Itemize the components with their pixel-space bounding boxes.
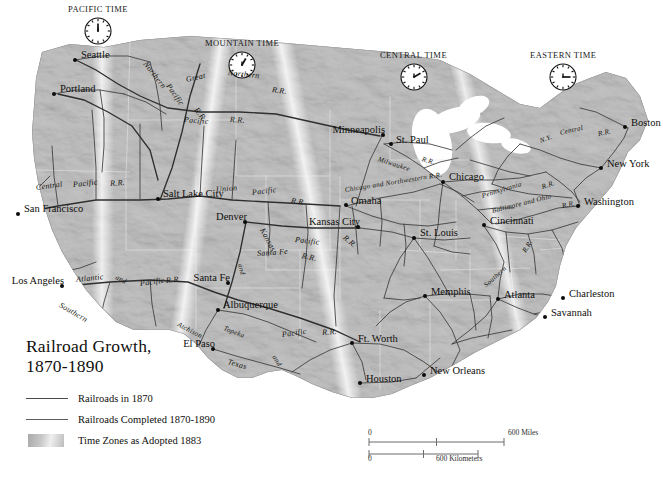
city-marker-dot	[389, 142, 393, 146]
city-label: Santa Fe	[194, 272, 230, 283]
city-marker-dot	[482, 223, 486, 227]
tz-eastern-clock-icon	[530, 60, 596, 92]
city-marker-dot	[623, 125, 627, 129]
scale-miles-start: 0	[368, 428, 372, 437]
city-label: San Francisco	[24, 203, 83, 214]
city-marker-dot	[543, 315, 547, 319]
line-1870-glyph	[26, 398, 68, 399]
city-label: Seattle	[81, 49, 110, 60]
legend-title-line1: Railroad Growth,	[26, 336, 215, 356]
city-marker-dot	[16, 212, 20, 216]
city-label: Charleston	[569, 288, 615, 299]
legend-railroads-1870-text: Railroads in 1870	[78, 393, 153, 404]
city-label: Boston	[631, 117, 661, 128]
swatch-tz-glyph	[28, 434, 64, 447]
city-label: Houston	[366, 373, 402, 384]
legend-time-zones: Time Zones as Adopted 1883	[26, 430, 215, 451]
railroad-name-label: R.R.	[166, 274, 182, 285]
legend-time-zones-text: Time Zones as Adopted 1883	[78, 435, 201, 446]
city-label: Cincinnati	[490, 215, 534, 226]
city-label: Savannah	[551, 307, 592, 318]
city-marker-dot	[358, 381, 362, 385]
tz-central: CENTRAL TIME	[380, 50, 447, 92]
city-marker-dot	[73, 58, 77, 62]
city-label: St. Paul	[396, 134, 429, 145]
city-label: Los Angeles	[12, 275, 64, 286]
city-marker-dot	[216, 308, 220, 312]
railroad-name-label: R.R.	[322, 327, 338, 337]
city-label: Salt Lake City	[163, 188, 224, 199]
city-label: Kansas City	[309, 216, 360, 227]
legend-railroads-completed: Railroads Completed 1870-1890	[26, 409, 215, 430]
city-label: St. Louis	[420, 227, 458, 238]
city-label: Albuquerque	[223, 299, 278, 310]
city-label: Minneapolis	[333, 124, 386, 135]
city-marker-dot	[561, 296, 565, 300]
city-marker-dot	[496, 297, 500, 301]
tz-central-label: CENTRAL TIME	[380, 50, 447, 60]
line-1890-glyph	[26, 419, 68, 420]
city-marker-dot	[422, 373, 426, 377]
tz-central-clock-icon	[380, 60, 447, 92]
map-legend: Railroad Growth, 1870-1890 Railroads in …	[26, 336, 215, 451]
city-label: Denver	[216, 211, 247, 222]
tz-pacific: PACIFIC TIME	[68, 4, 128, 46]
city-label: New Orleans	[430, 365, 485, 376]
tz-pacific-label: PACIFIC TIME	[68, 4, 128, 14]
city-marker-dot	[423, 294, 427, 298]
legend-railroads-completed-text: Railroads Completed 1870-1890	[78, 414, 215, 425]
city-label: Ft. Worth	[358, 333, 398, 344]
city-marker-dot	[156, 197, 160, 201]
legend-railroads-completed-swatch	[26, 419, 78, 420]
legend-rows: Railroads in 1870Railroads Completed 187…	[26, 388, 215, 451]
city-marker-dot	[412, 236, 416, 240]
city-label: Atlanta	[504, 289, 535, 300]
city-label: Portland	[60, 83, 96, 94]
city-marker-dot	[344, 203, 348, 207]
scale-miles-bar	[368, 438, 506, 446]
railroad-name-label: R.R.	[290, 196, 306, 207]
city-marker-dot	[599, 166, 603, 170]
railroad-name-label: R.R.	[271, 85, 287, 96]
tz-pacific-clock-icon	[68, 14, 128, 46]
tz-mountain-label: MOUNTAIN TIME	[205, 38, 279, 48]
city-label: Washington	[584, 196, 634, 207]
railroad-growth-map: PACIFIC TIME MOUNTAIN TIME CENTRAL TIME …	[0, 0, 663, 479]
city-label: Memphis	[431, 286, 471, 297]
city-label: Omaha	[351, 195, 381, 206]
city-label: New York	[607, 158, 650, 169]
legend-title-line2: 1870-1890	[26, 356, 215, 376]
city-marker-dot	[441, 180, 445, 184]
scale-km-bar	[368, 450, 480, 458]
legend-railroads-1870: Railroads in 1870	[26, 388, 215, 409]
legend-time-zones-swatch	[26, 434, 78, 447]
scale-miles-end: 600 Miles	[508, 428, 538, 437]
city-label: Chicago	[449, 171, 484, 182]
legend-railroads-1870-swatch	[26, 398, 78, 399]
railroad-name-label: R.R.	[110, 178, 126, 188]
city-marker-dot	[350, 341, 354, 345]
city-marker-dot	[52, 92, 56, 96]
city-marker-dot	[576, 204, 580, 208]
tz-eastern: EASTERN TIME	[530, 50, 596, 92]
tz-eastern-label: EASTERN TIME	[530, 50, 596, 60]
railroad-name-label: R.R.	[230, 115, 245, 125]
